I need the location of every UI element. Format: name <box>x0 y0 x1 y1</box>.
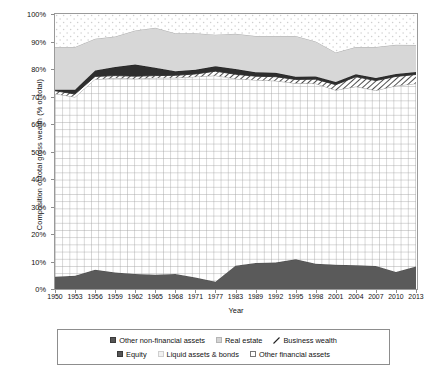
x-tick-mark <box>75 290 76 293</box>
x-tick-mark <box>115 290 116 293</box>
y-tick-label: 80% <box>0 65 46 74</box>
y-tick-label: 60% <box>0 120 46 129</box>
x-tick-label: 2013 <box>401 293 431 300</box>
chart-figure: Composition of total gross wealth (% of … <box>0 0 442 375</box>
x-tick-mark <box>135 290 136 293</box>
stacked-area-series <box>55 14 417 289</box>
x-tick-mark <box>296 290 297 293</box>
x-tick-mark <box>356 290 357 293</box>
x-tick-mark <box>396 290 397 293</box>
legend-item-label: Real estate <box>225 336 262 345</box>
x-tick-mark <box>215 290 216 293</box>
legend-swatch-dark-icon <box>117 351 123 357</box>
legend-swatch-hatch-icon <box>273 337 280 344</box>
x-tick-mark <box>316 290 317 293</box>
y-tick-label: 40% <box>0 175 46 184</box>
x-tick-mark <box>95 290 96 293</box>
x-tick-mark <box>195 290 196 293</box>
chart-legend: Other non-financial assetsReal estateBus… <box>57 329 390 365</box>
legend-item-label: Other financial assets <box>259 350 330 359</box>
x-tick-mark <box>175 290 176 293</box>
legend-item[interactable]: Real estate <box>216 336 262 345</box>
legend-swatch-grey-icon <box>216 337 222 343</box>
legend-swatch-light-icon <box>158 351 164 357</box>
y-tick-label: 10% <box>0 257 46 266</box>
x-tick-mark <box>155 290 156 293</box>
legend-item[interactable]: Equity <box>117 350 147 359</box>
legend-item[interactable]: Other financial assets <box>250 350 330 359</box>
y-tick-label: 20% <box>0 230 46 239</box>
y-tick-label: 50% <box>0 147 46 156</box>
legend-row-1: Other non-financial assetsReal estateBus… <box>62 333 385 347</box>
x-tick-mark <box>55 290 56 293</box>
area-liquid-assets-bonds <box>55 76 416 282</box>
legend-item[interactable]: Business wealth <box>273 336 336 345</box>
x-tick-mark <box>276 290 277 293</box>
y-tick-label: 30% <box>0 202 46 211</box>
x-tick-mark <box>336 290 337 293</box>
legend-swatch-white-icon <box>250 351 256 357</box>
y-tick-label: 100% <box>0 10 46 19</box>
x-tick-mark <box>256 290 257 293</box>
legend-item[interactable]: Liquid assets & bonds <box>158 350 239 359</box>
x-tick-mark <box>376 290 377 293</box>
x-tick-mark <box>416 290 417 293</box>
legend-row-2: EquityLiquid assets & bondsOther financi… <box>62 347 385 361</box>
legend-item[interactable]: Other non-financial assets <box>110 336 205 345</box>
y-tick-label: 70% <box>0 92 46 101</box>
x-axis-title: Year <box>54 306 418 315</box>
legend-item-label: Liquid assets & bonds <box>167 350 239 359</box>
legend-item-label: Other non-financial assets <box>119 336 205 345</box>
x-tick-mark <box>236 290 237 293</box>
y-tick-label: 90% <box>0 37 46 46</box>
legend-item-label: Business wealth <box>283 336 336 345</box>
plot-area <box>54 13 418 290</box>
legend-item-label: Equity <box>126 350 147 359</box>
legend-swatch-dark-icon <box>110 337 116 343</box>
